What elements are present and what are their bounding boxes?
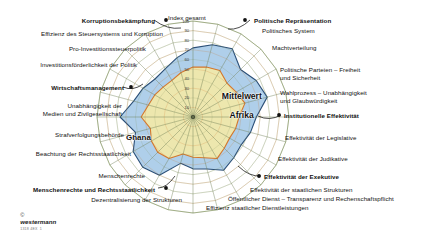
series-label-line1: Mittelwert	[222, 91, 262, 101]
category-label-korruptionsbekaempfung: Korruptionsbekämpfung	[0, 17, 155, 24]
group-label-marker	[243, 18, 247, 22]
group-label-marker	[277, 113, 281, 117]
category-label-effizienz-steuersystem: Effizienz des Steuersystems und Korrupti…	[0, 30, 163, 37]
category-label-politische-parteien-line1: Politische Parteien – Freiheit	[280, 66, 360, 73]
group-label-marker	[164, 186, 168, 190]
category-label-menschenrechte: Menschenrechte	[0, 172, 145, 179]
scale-tick-60: 60	[169, 57, 189, 62]
publisher-name: westermann	[20, 218, 56, 225]
category-label-pro-investitionssteuerpolitik: Pro-Investitionssteuerpolitik	[0, 45, 146, 52]
scale-tick-30: 30	[169, 86, 189, 91]
scale-tick-50: 50	[169, 67, 189, 72]
category-label-strafverfolgungsbehoerde: Strafverfolgungsbehörde	[0, 131, 124, 138]
scale-tick-10: 10	[169, 105, 189, 110]
category-label-effektivitaet-exekutive: Effektivität der Exekutive	[264, 173, 339, 180]
scale-tick-70: 70	[169, 47, 189, 52]
category-label-institutionelle-effektivitaet: Institutionelle Effektivität	[284, 112, 359, 119]
scale-tick-90: 90	[169, 28, 189, 33]
scale-tick-80: 80	[169, 38, 189, 43]
category-label-effektivitaet-judikative: Effektivität der Judikative	[278, 155, 348, 162]
category-label-effizienz-dienstleistungen: Effizienz staatlicher Dienstleistungen	[206, 204, 309, 211]
figure-code: 1318 4EX_1	[20, 227, 42, 230]
category-label-machtverteilung: Machtverteilung	[272, 44, 316, 51]
category-label-investitionsfoerderlichkeit: Investitionsförderlichkeit der Politik	[0, 61, 137, 68]
category-label-wahlprozess-line2: und Glaubwürdigkeit	[280, 97, 337, 104]
category-label-effektivitaet-legislative: Effektivität der Legislative	[285, 134, 356, 141]
axis-title-index-gesamt: Index gesamt	[168, 14, 206, 21]
radar-chart-figure: 100908070605040302010 Index gesamt Mitte…	[0, 0, 428, 230]
category-label-wirtschaftsmanagement: Wirtschaftsmanagement	[0, 84, 124, 91]
series-label-ghana: Ghana	[126, 133, 151, 142]
scale-tick-20: 20	[169, 95, 189, 100]
category-label-politische-repraesentation: Politische Repräsentation	[254, 17, 331, 24]
category-label-menschenrechte-rechtsstaatlichkeit: Menschenrechte und Rechtsstaatlichkeit	[0, 186, 155, 193]
scale-tick-40: 40	[169, 76, 189, 81]
copyright-notice: © westermann 1318 4EX_1	[14, 206, 56, 230]
group-label-marker	[257, 174, 261, 178]
category-label-wahlprozess-line1: Wahlprozess – Unabhängigkeit	[280, 89, 367, 96]
category-label-unabhaengigkeit-medien-line2: Medien und Zivilgesellschaft	[0, 110, 122, 117]
category-label-oeffentlicher-dienst: Öffentlicher Dienst – Transparenz und Re…	[228, 195, 394, 202]
category-label-beachtung-rechtsstaatlichkeit: Beachtung der Rechtsstaatlichkeit	[0, 150, 131, 157]
category-label-politisches-system: Politisches System	[262, 27, 315, 34]
category-label-effektivitaet-staatliche-strukturen: Effektivität der staatlichen Strukturen	[250, 186, 353, 193]
category-label-politische-parteien-line2: und Sicherheit	[280, 74, 320, 81]
series-label-mittelwert-afrika: Mittelwert Afrika	[204, 82, 270, 130]
category-label-dezentralisierung: Dezentralisierung der Strukturen	[0, 196, 182, 203]
category-label-unabhaengigkeit-medien-line1: Unabhängigkeit der	[0, 102, 122, 109]
group-label-marker	[129, 85, 133, 89]
series-label-line2: Afrika	[229, 110, 253, 120]
